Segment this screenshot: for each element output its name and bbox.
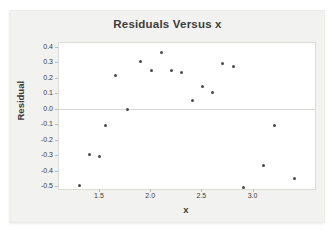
y-tick-label: 0.2 bbox=[11, 74, 53, 82]
y-tick-mark bbox=[55, 140, 58, 141]
data-point bbox=[221, 62, 224, 65]
y-tick-label: -0.2 bbox=[11, 136, 53, 144]
data-point bbox=[180, 71, 183, 74]
y-tick-mark bbox=[55, 47, 58, 48]
data-point bbox=[150, 69, 153, 72]
data-point bbox=[88, 153, 91, 156]
data-point bbox=[114, 74, 117, 77]
y-tick-label: 0.4 bbox=[11, 43, 53, 51]
plot-area bbox=[58, 42, 316, 190]
y-tick-label: 0.0 bbox=[11, 105, 53, 113]
y-tick-mark bbox=[55, 186, 58, 187]
zero-reference-line bbox=[59, 109, 315, 110]
y-tick-label: -0.1 bbox=[11, 120, 53, 128]
x-tick-label: 2.0 bbox=[145, 192, 155, 200]
data-point bbox=[139, 60, 142, 63]
data-point bbox=[211, 91, 214, 94]
y-tick-mark bbox=[55, 62, 58, 63]
data-point bbox=[126, 108, 129, 111]
data-point bbox=[232, 65, 235, 68]
x-tick-mark bbox=[201, 189, 202, 192]
y-tick-mark bbox=[55, 124, 58, 125]
y-tick-label: 0.3 bbox=[11, 58, 53, 66]
data-point bbox=[262, 164, 265, 167]
y-tick-mark bbox=[55, 93, 58, 94]
y-tick-label: -0.3 bbox=[11, 151, 53, 159]
data-point bbox=[191, 99, 194, 102]
data-point bbox=[104, 124, 107, 127]
y-tick-mark bbox=[55, 109, 58, 110]
data-point bbox=[273, 124, 276, 127]
chart-title: Residuals Versus x bbox=[11, 18, 324, 30]
data-point bbox=[170, 69, 173, 72]
data-point bbox=[98, 155, 101, 158]
data-point bbox=[160, 51, 163, 54]
y-tick-label: -0.5 bbox=[11, 182, 53, 190]
y-tick-mark bbox=[55, 78, 58, 79]
residuals-scatter-plot-figure: Residuals Versus x Residual x 0.40.30.20… bbox=[10, 10, 325, 223]
data-point bbox=[78, 184, 81, 187]
y-tick-mark bbox=[55, 155, 58, 156]
x-tick-label: 1.5 bbox=[94, 192, 104, 200]
x-tick-label: 3.0 bbox=[248, 192, 258, 200]
y-axis-title: Residual bbox=[15, 81, 26, 121]
x-tick-label: 2.5 bbox=[196, 192, 206, 200]
x-tick-mark bbox=[150, 189, 151, 192]
x-axis-title: x bbox=[58, 204, 314, 215]
x-tick-mark bbox=[253, 189, 254, 192]
x-tick-mark bbox=[99, 189, 100, 192]
data-point bbox=[242, 186, 245, 189]
y-tick-label: 0.1 bbox=[11, 89, 53, 97]
y-tick-mark bbox=[55, 171, 58, 172]
data-point bbox=[293, 177, 296, 180]
y-tick-label: -0.4 bbox=[11, 167, 53, 175]
data-point bbox=[201, 85, 204, 88]
